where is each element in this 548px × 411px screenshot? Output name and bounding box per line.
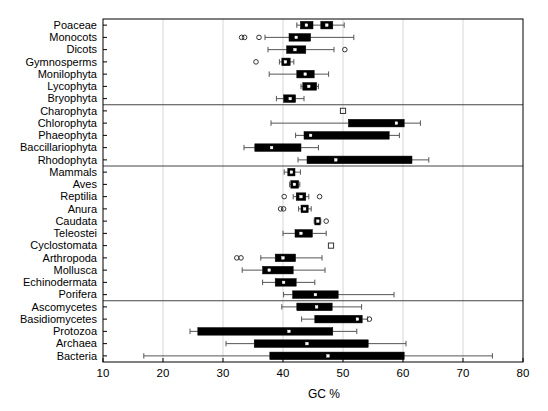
- median-marker: [306, 342, 309, 345]
- box-iqr: [198, 328, 333, 336]
- median-marker: [317, 220, 320, 223]
- x-tick-label: 20: [157, 367, 170, 379]
- median-marker: [308, 85, 311, 88]
- category-label: Bryophyta: [47, 92, 97, 104]
- category-label: Baccillariophyta: [20, 141, 98, 153]
- category-label: Monilophyta: [38, 68, 98, 80]
- median-marker: [327, 355, 330, 358]
- category-label: Rhodophyta: [38, 154, 98, 166]
- boxplot-chart: 1020304050607080 PoaceaeMonocotsDicotsGy…: [0, 0, 548, 411]
- median-marker: [268, 269, 271, 272]
- median-marker: [356, 318, 359, 321]
- box-iqr: [255, 144, 301, 152]
- x-tick-label: 60: [397, 367, 410, 379]
- category-label: Charophyta: [40, 105, 98, 117]
- category-label: Gymnosperms: [25, 56, 97, 68]
- category-label: Teleostei: [54, 227, 97, 239]
- median-marker: [300, 195, 303, 198]
- median-marker: [309, 134, 312, 137]
- median-marker: [282, 257, 285, 260]
- category-label: Anura: [68, 203, 98, 215]
- box-iqr: [270, 352, 404, 360]
- box-iqr: [297, 303, 332, 311]
- category-label: Caudata: [55, 215, 97, 227]
- category-label: Mammals: [49, 166, 97, 178]
- category-label: Reptilia: [60, 190, 98, 202]
- box-iqr: [307, 156, 412, 164]
- boxplot-item: [298, 156, 429, 164]
- category-label: Archaea: [56, 337, 98, 349]
- median-marker: [295, 36, 298, 39]
- median-marker: [300, 232, 303, 235]
- box-iqr: [275, 279, 296, 287]
- median-marker: [335, 159, 338, 162]
- x-tick-label: 80: [517, 367, 530, 379]
- median-marker: [284, 61, 287, 64]
- median-marker: [303, 208, 306, 211]
- category-label: Chlorophyta: [38, 117, 98, 129]
- x-tick-label: 30: [217, 367, 230, 379]
- median-marker: [290, 171, 293, 174]
- median-marker: [294, 48, 297, 51]
- boxplot-item: [290, 181, 300, 189]
- median-marker: [293, 183, 296, 186]
- category-label: Aves: [73, 178, 98, 190]
- category-label: Lycophyta: [47, 80, 98, 92]
- box-iqr: [289, 34, 311, 42]
- category-label: Ascomycetes: [32, 301, 98, 313]
- box-iqr: [263, 266, 294, 274]
- category-label: Poaceae: [54, 19, 97, 31]
- median-marker: [288, 330, 291, 333]
- category-label: Porifera: [58, 288, 97, 300]
- chart-root: 1020304050607080 PoaceaeMonocotsDicotsGy…: [0, 0, 548, 411]
- median-marker: [395, 122, 398, 125]
- median-marker: [304, 73, 307, 76]
- boxplot-item: [301, 83, 318, 91]
- box-iqr: [315, 315, 362, 323]
- box-iqr: [295, 230, 312, 238]
- box-iqr: [275, 254, 295, 262]
- category-label: Echinodermata: [23, 276, 98, 288]
- boxplot-item: [296, 132, 400, 140]
- category-label: Basidiomycetes: [20, 313, 98, 325]
- boxplot-item: [190, 328, 357, 336]
- median-marker-secondary: [326, 24, 329, 27]
- category-label: Bacteria: [57, 350, 98, 362]
- median-marker: [289, 97, 292, 100]
- box-iqr: [254, 340, 368, 348]
- category-label: Mollusca: [54, 264, 98, 276]
- x-tick-label: 40: [277, 367, 290, 379]
- x-tick-label: 50: [337, 367, 350, 379]
- category-label: Dicots: [66, 43, 97, 55]
- category-label: Cyclostomata: [30, 239, 98, 251]
- x-tick-label: 10: [97, 367, 110, 379]
- median-marker: [314, 293, 317, 296]
- category-label: Arthropoda: [43, 252, 98, 264]
- category-label: Protozoa: [53, 325, 98, 337]
- median-marker: [315, 306, 318, 309]
- median-marker: [282, 281, 285, 284]
- category-label: Monocots: [49, 31, 97, 43]
- median-marker: [270, 146, 273, 149]
- x-axis-title: GC %: [308, 387, 340, 401]
- x-tick-label: 70: [457, 367, 470, 379]
- median-marker: [305, 24, 308, 27]
- category-label: Phaeophyta: [38, 129, 98, 141]
- box-iqr: [304, 132, 389, 140]
